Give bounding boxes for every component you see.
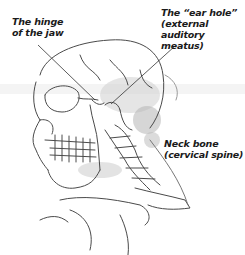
label-jaw-hinge-line2: of the jaw [12, 27, 63, 38]
label-ear-hole: The “ear hole” (external auditory meatus… [161, 7, 245, 51]
label-jaw-hinge: The hinge of the jaw [12, 16, 63, 38]
label-jaw-hinge-line1: The hinge [12, 16, 63, 27]
label-ear-hole-line2: (external auditory [161, 18, 245, 40]
label-neck-bone-line1: Neck bone [164, 138, 243, 149]
label-ear-hole-line1: The “ear hole” [161, 7, 245, 18]
label-neck-bone: Neck bone (cervical spine) [164, 138, 243, 160]
label-neck-bone-line2: (cervical spine) [164, 149, 243, 160]
label-ear-hole-line3: meatus) [161, 40, 245, 51]
